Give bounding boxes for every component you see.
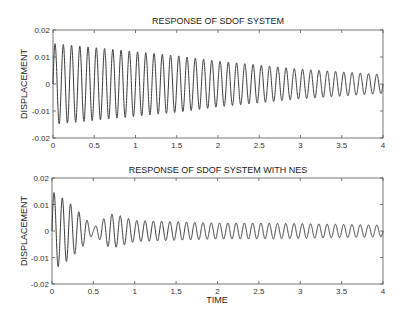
y-axis-ticks: 0.020.010-0.01-0.02 [32, 26, 383, 143]
x-axis-label: TIME [206, 295, 228, 305]
y-tick-label: -0.02 [32, 134, 51, 143]
x-tick-label: 3 [298, 141, 303, 150]
x-tick-label: 3.5 [336, 287, 348, 296]
data-line [53, 44, 383, 124]
x-axis-ticks: 00.511.522.533.54 [51, 30, 386, 150]
y-tick-label: -0.01 [32, 107, 51, 116]
y-tick-label: 0 [46, 80, 51, 89]
y-tick-label: 0.01 [33, 201, 49, 210]
chart-sdof-with-nes: RESPONSE OF SDOF SYSTEM WITH NES 0.020.0… [19, 165, 386, 305]
figure: RESPONSE OF SDOF SYSTEM 0.020.010-0.01-0… [0, 0, 403, 318]
y-tick-label: -0.02 [31, 280, 50, 289]
chart-title: RESPONSE OF SDOF SYSTEM [152, 16, 284, 26]
x-axis-ticks: 00.511.522.533.54 [50, 178, 386, 296]
x-tick-label: 1.5 [171, 141, 183, 150]
chart-title: RESPONSE OF SDOF SYSTEM WITH NES [129, 165, 308, 175]
y-axis-ticks: 0.020.010-0.01-0.02 [31, 174, 383, 289]
chart-sdof: RESPONSE OF SDOF SYSTEM 0.020.010-0.01-0… [19, 16, 386, 150]
x-tick-label: 1 [133, 287, 138, 296]
x-tick-label: 3.5 [336, 141, 348, 150]
y-tick-label: 0.02 [33, 174, 49, 183]
data-line [52, 193, 383, 267]
y-axis-label: DISPLACEMENT [19, 195, 29, 266]
x-tick-label: 0 [51, 141, 56, 150]
x-tick-label: 2.5 [254, 141, 266, 150]
x-tick-label: 0 [50, 287, 55, 296]
x-tick-label: 2 [216, 141, 221, 150]
x-tick-label: 4 [381, 141, 386, 150]
x-tick-label: 2.5 [253, 287, 265, 296]
x-tick-label: 1.5 [171, 287, 183, 296]
y-tick-label: 0.02 [34, 26, 50, 35]
x-tick-label: 0.5 [89, 141, 101, 150]
x-tick-label: 3 [298, 287, 303, 296]
y-tick-label: 0.01 [34, 53, 50, 62]
x-tick-label: 1 [133, 141, 138, 150]
y-axis-label: DISPLACEMENT [19, 48, 29, 119]
x-tick-label: 0.5 [88, 287, 100, 296]
x-tick-label: 4 [381, 287, 386, 296]
y-tick-label: 0 [45, 227, 50, 236]
y-tick-label: -0.01 [31, 254, 50, 263]
